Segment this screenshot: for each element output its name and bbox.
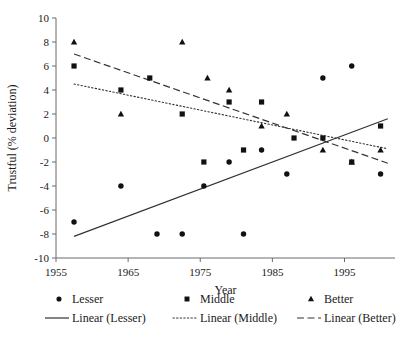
y-tick-label: 0 — [44, 132, 50, 144]
x-tick-label: 1995 — [334, 266, 357, 278]
trendline-linear-better — [74, 54, 388, 163]
legend-label-better: Better — [324, 292, 353, 306]
y-tick-label: -8 — [40, 228, 50, 240]
trendline-linear-lesser — [74, 119, 388, 237]
data-point-lesser — [180, 231, 185, 236]
data-point-middle — [227, 99, 232, 104]
x-tick-label: 1985 — [261, 266, 284, 278]
data-point-middle — [71, 63, 76, 68]
chart-legend: LesserMiddleBetterLinear (Lesser)Linear … — [45, 292, 396, 325]
data-point-better — [118, 111, 124, 117]
y-tick-label: -6 — [40, 204, 50, 216]
legend-label-middle: Middle — [200, 292, 235, 306]
data-point-lesser — [259, 147, 264, 152]
y-axis-title: Trustful (% deviation) — [5, 85, 19, 192]
data-point-better — [226, 87, 232, 93]
data-point-better — [258, 123, 264, 129]
y-tick-label: -4 — [40, 180, 50, 192]
trendline-linear-middle — [74, 84, 388, 149]
data-point-lesser — [201, 183, 206, 188]
legend-label-linear-middle: Linear (Middle) — [200, 311, 277, 325]
data-point-middle — [241, 147, 246, 152]
data-point-middle — [201, 159, 206, 164]
scatter-plot: 1086420-2-4-6-8-10 19551965197519851995 … — [0, 0, 407, 349]
data-point-middle — [147, 75, 152, 80]
data-point-better — [71, 39, 77, 45]
data-point-lesser — [320, 75, 325, 80]
y-tick-label: -10 — [34, 252, 49, 264]
legend-label-linear-lesser: Linear (Lesser) — [72, 311, 146, 325]
y-tick-label: 6 — [44, 60, 50, 72]
data-point-middle — [180, 111, 185, 116]
data-point-lesser — [118, 183, 123, 188]
data-point-middle — [259, 99, 264, 104]
legend-label-lesser: Lesser — [72, 292, 103, 306]
legend-marker-middle — [185, 297, 190, 302]
y-tick-label: -2 — [40, 156, 49, 168]
legend-label-linear-better: Linear (Better) — [324, 311, 396, 325]
legend-marker-better — [308, 296, 314, 301]
trendlines-layer — [74, 54, 388, 236]
y-tick-label: 8 — [44, 36, 50, 48]
data-point-better — [204, 75, 210, 81]
data-point-better — [179, 39, 185, 45]
data-point-middle — [118, 87, 123, 92]
x-tick-label: 1975 — [189, 266, 212, 278]
data-point-better — [284, 111, 290, 117]
data-point-lesser — [154, 231, 159, 236]
data-point-better — [377, 147, 383, 153]
y-tick-label: 4 — [44, 84, 50, 96]
y-tick-label: 10 — [38, 12, 50, 24]
data-point-middle — [378, 123, 383, 128]
data-point-better — [320, 147, 326, 153]
chart-figure: 1086420-2-4-6-8-10 19551965197519851995 … — [0, 0, 407, 349]
data-point-lesser — [378, 171, 383, 176]
data-point-lesser — [71, 219, 76, 224]
y-axis: 1086420-2-4-6-8-10 — [34, 12, 56, 264]
x-tick-label: 1955 — [45, 266, 68, 278]
data-point-lesser — [241, 231, 246, 236]
data-point-lesser — [226, 159, 231, 164]
legend-marker-lesser — [56, 296, 61, 301]
x-axis: 19551965197519851995 — [45, 258, 395, 278]
data-point-lesser — [349, 63, 354, 68]
x-tick-label: 1965 — [117, 266, 140, 278]
data-point-lesser — [284, 171, 289, 176]
data-point-middle — [291, 135, 296, 140]
y-tick-label: 2 — [44, 108, 50, 120]
data-point-middle — [320, 135, 325, 140]
